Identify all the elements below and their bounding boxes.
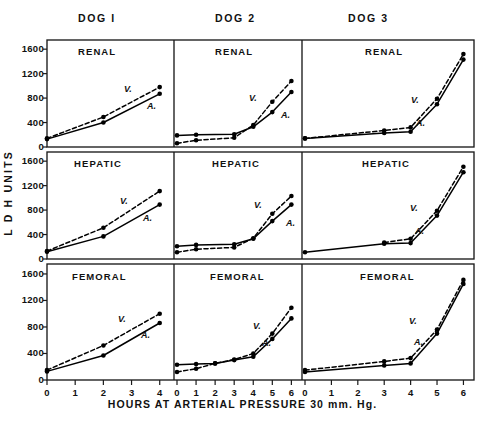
data-point-a-panel-8-1 <box>382 363 387 368</box>
x-tick-label-1-0: 0 <box>167 387 187 398</box>
figure-root: DOG I DOG 2 DOG 3 L D H UNITS HOURS AT A… <box>0 0 485 429</box>
y-tick-label-1-1: 400 <box>2 229 44 240</box>
data-point-a-panel-6-2 <box>157 321 162 326</box>
panel-title-dog-i-femoral: FEMORAL <box>72 271 127 282</box>
x-tick-label-1-3: 3 <box>224 387 244 398</box>
series-label-a-panel-4: A. <box>286 218 295 228</box>
data-point-v-panel-7-6 <box>289 305 294 310</box>
series-label-a-panel-0: A. <box>147 101 156 111</box>
x-tick-label-2-4: 4 <box>401 387 421 398</box>
series-line-a-panel-8 <box>305 284 463 372</box>
data-point-a-panel-4-4 <box>270 219 275 224</box>
data-point-a-panel-4-5 <box>289 202 294 207</box>
y-tick-label-0-4: 1600 <box>2 43 44 54</box>
data-point-v-panel-4-3 <box>251 236 256 241</box>
data-point-v-panel-8-4 <box>461 278 466 283</box>
series-label-a-panel-7: A. <box>262 338 271 348</box>
data-point-v-panel-5-2 <box>435 208 440 213</box>
data-point-v-panel-6-2 <box>157 311 162 316</box>
x-tick-label-1-4: 4 <box>243 387 263 398</box>
plot-canvas <box>0 0 485 429</box>
x-tick-label-0-2: 2 <box>93 387 113 398</box>
x-tick-label-0-1: 1 <box>65 387 85 398</box>
series-label-a-panel-1: A. <box>281 110 290 120</box>
data-point-v-panel-5-3 <box>461 164 466 169</box>
data-point-v-panel-7-4 <box>251 351 256 356</box>
data-point-v-panel-1-1 <box>194 138 199 143</box>
series-line-a-panel-4 <box>177 205 291 247</box>
y-tick-label-2-2: 800 <box>2 321 44 332</box>
series-label-a-panel-2: A. <box>416 118 425 128</box>
panel-title-dog-3-renal: RENAL <box>365 46 403 57</box>
data-point-v-panel-2-3 <box>435 96 440 101</box>
series-label-v-panel-6: V. <box>118 314 126 324</box>
x-tick-label-2-1: 1 <box>321 387 341 398</box>
data-point-v-panel-0-0 <box>45 136 50 141</box>
panel-title-dog-i-hepatic: HEPATIC <box>74 158 122 169</box>
data-point-v-panel-3-0 <box>45 249 50 254</box>
y-tick-label-0-3: 1200 <box>2 68 44 79</box>
panel-title-dog-2-hepatic: HEPATIC <box>212 158 260 169</box>
series-label-a-panel-5: A. <box>415 226 424 236</box>
data-point-a-panel-1-4 <box>270 110 275 115</box>
data-point-v-panel-1-5 <box>289 79 294 84</box>
data-point-v-panel-3-2 <box>157 189 162 194</box>
data-point-a-panel-5-2 <box>408 241 413 246</box>
data-point-v-panel-7-3 <box>232 357 237 362</box>
series-label-v-panel-3: V. <box>120 196 128 206</box>
data-point-a-panel-3-2 <box>157 202 162 207</box>
data-point-a-panel-1-1 <box>194 133 199 138</box>
y-tick-label-2-3: 1200 <box>2 294 44 305</box>
data-point-v-panel-5-1 <box>408 237 413 242</box>
panel-title-dog-3-femoral: FEMORAL <box>360 271 415 282</box>
y-tick-label-0-0: 0 <box>2 141 44 152</box>
data-point-v-panel-1-4 <box>270 100 275 105</box>
x-tick-label-2-6: 6 <box>453 387 473 398</box>
series-label-v-panel-5: V. <box>410 203 418 213</box>
data-point-a-panel-2-3 <box>435 102 440 107</box>
y-tick-label-0-2: 800 <box>2 92 44 103</box>
series-label-a-panel-3: A. <box>143 213 152 223</box>
data-point-a-panel-0-1 <box>101 120 106 125</box>
data-point-a-panel-8-2 <box>408 361 413 366</box>
series-line-v-panel-8 <box>305 280 463 370</box>
data-point-a-panel-3-1 <box>101 234 106 239</box>
y-tick-label-1-4: 1600 <box>2 155 44 166</box>
data-point-v-panel-8-1 <box>382 359 387 364</box>
data-point-v-panel-5-0 <box>382 240 387 245</box>
data-point-a-panel-5-0 <box>303 250 308 255</box>
y-tick-label-1-2: 800 <box>2 204 44 215</box>
data-point-v-panel-2-2 <box>408 125 413 130</box>
data-point-a-panel-7-6 <box>289 316 294 321</box>
data-point-v-panel-0-2 <box>157 85 162 90</box>
series-label-a-panel-8: A. <box>414 337 423 347</box>
data-point-a-panel-1-5 <box>289 90 294 95</box>
x-tick-label-1-1: 1 <box>186 387 206 398</box>
data-point-a-panel-4-1 <box>194 243 199 248</box>
y-tick-label-1-0: 0 <box>2 253 44 264</box>
data-point-v-panel-0-1 <box>101 115 106 120</box>
x-tick-label-0-3: 3 <box>122 387 142 398</box>
data-point-v-panel-6-1 <box>101 343 106 348</box>
series-label-v-panel-1: V. <box>249 93 257 103</box>
data-point-v-panel-2-1 <box>382 128 387 133</box>
data-point-v-panel-7-1 <box>194 366 199 371</box>
series-line-v-panel-2 <box>305 54 463 138</box>
data-point-v-panel-2-4 <box>461 52 466 57</box>
series-line-a-panel-2 <box>305 60 463 139</box>
series-label-a-panel-6: A. <box>141 330 150 340</box>
panel-title-dog-2-femoral: FEMORAL <box>210 271 265 282</box>
data-point-v-panel-1-2 <box>232 136 237 141</box>
x-tick-label-2-2: 2 <box>348 387 368 398</box>
data-point-v-panel-1-0 <box>175 141 180 146</box>
data-point-v-panel-7-2 <box>213 361 218 366</box>
panel-title-dog-3-hepatic: HEPATIC <box>362 158 410 169</box>
series-label-v-panel-4: V. <box>254 200 262 210</box>
data-point-a-panel-1-0 <box>175 133 180 138</box>
data-point-a-panel-5-3 <box>435 213 440 218</box>
data-point-v-panel-6-0 <box>45 368 50 373</box>
data-point-a-panel-0-2 <box>157 92 162 97</box>
data-point-a-panel-7-1 <box>194 362 199 367</box>
panel-title-dog-2-renal: RENAL <box>215 46 253 57</box>
panel-title-dog-i-renal: RENAL <box>78 46 116 57</box>
